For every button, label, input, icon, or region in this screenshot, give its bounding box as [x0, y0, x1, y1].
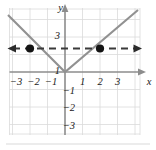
data-point-right [96, 44, 104, 52]
x-tick-label-3: 3 [114, 76, 120, 87]
y-tick-label-3: 3 [54, 30, 60, 41]
y-axis-label: y [57, 2, 63, 13]
x-axis-label: x [146, 76, 152, 87]
x-tick-label-1: 1 [80, 76, 85, 87]
x-tick-label-neg1: −1 [45, 76, 57, 87]
y-tick-label-1: 1 [55, 65, 60, 76]
plot-background [0, 0, 156, 150]
y-tick-label-neg3: −3 [63, 120, 75, 131]
graph-figure: -3 −3 −2 −1 1 2 3 3 1 −1 −2 −3 y x [0, 0, 156, 150]
y-tick-label-neg1: −1 [63, 85, 75, 96]
x-tick-label-neg2: −2 [27, 76, 40, 87]
y-tick-label-neg2: −2 [63, 102, 76, 113]
x-tick-label-neg3: −3 [10, 76, 22, 87]
data-point-left [26, 44, 34, 52]
coordinate-plane-plot: -3 −3 −2 −1 1 2 3 3 1 −1 −2 −3 y x [0, 0, 156, 150]
x-tick-label-2: 2 [97, 76, 103, 87]
